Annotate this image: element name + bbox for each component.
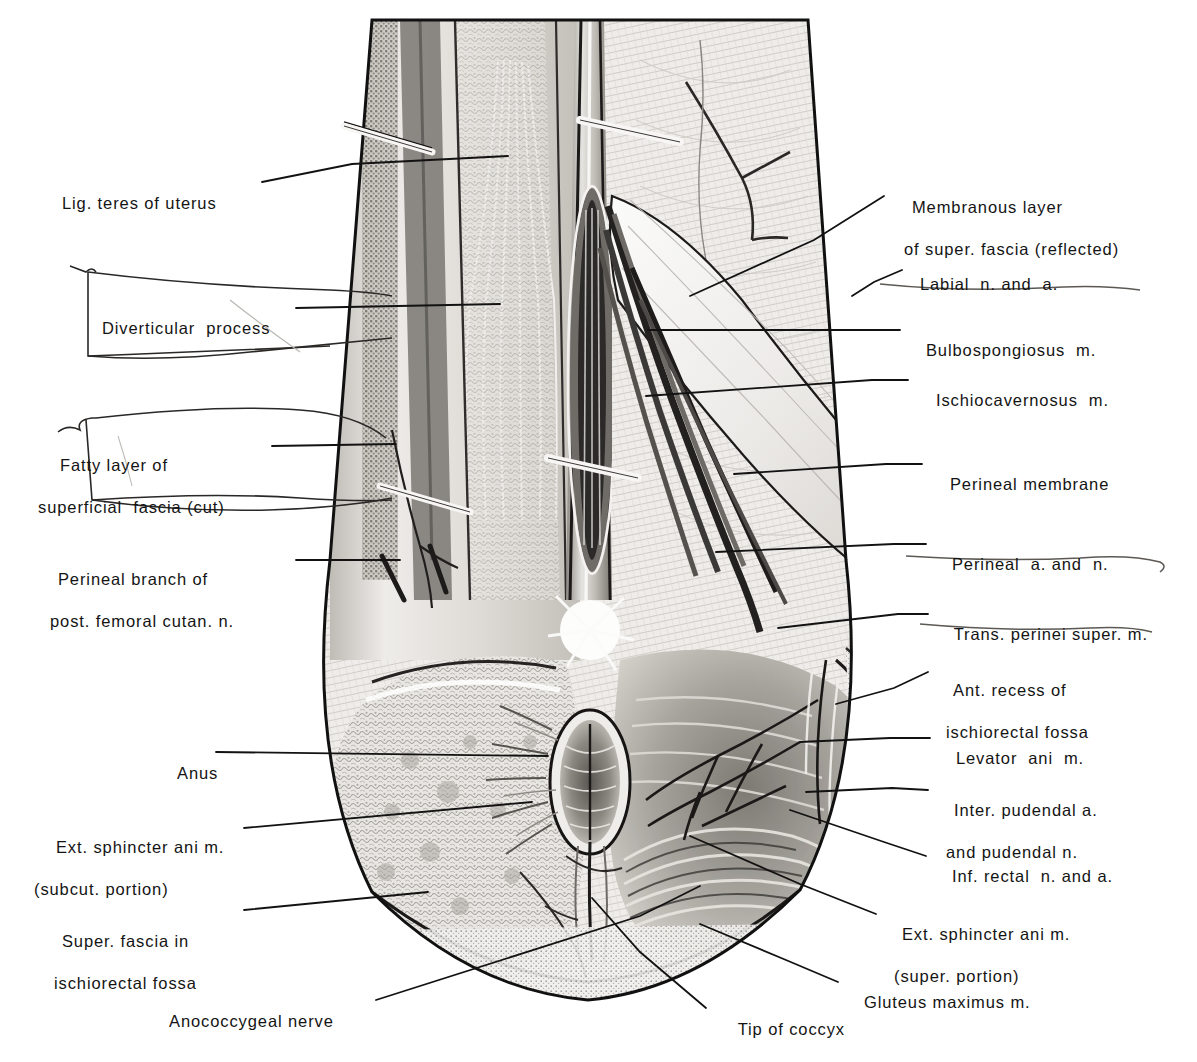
label-text-line2: post. femoral cutan. n. xyxy=(36,611,234,632)
label-text-line1: Perineal branch of xyxy=(58,570,208,588)
label-text-line1: Tip of coccyx xyxy=(738,1020,845,1038)
label-perineal-a-and-n: Perineal a. and n. xyxy=(930,533,1108,596)
label-perineal-membrane: Perineal membrane xyxy=(928,453,1109,516)
leader-ischiocavernosus-m xyxy=(646,380,908,396)
leader-fatty-layer-of-superficial-fascia xyxy=(272,444,396,446)
leader-inf-rectal-n-and-a xyxy=(790,810,926,856)
label-text-line1: Lig. teres of uterus xyxy=(62,194,217,212)
label-text-line1: Fatty layer of xyxy=(60,456,168,474)
label-text-line1: Anus xyxy=(177,764,218,782)
label-text-line1: Diverticular process xyxy=(102,319,270,337)
leader-trans-perinei-super-m xyxy=(778,614,928,628)
leader-lig-teres-of-uterus xyxy=(262,156,508,182)
label-text-line1: Bulbospongiosus m. xyxy=(926,341,1096,359)
leader-membranous-layer xyxy=(690,196,884,296)
leader-perineal-membrane xyxy=(734,464,922,474)
label-text-line2: (subcut. portion) xyxy=(34,879,224,900)
leader-super-fascia-in-ischiorectal-fossa xyxy=(244,892,428,910)
leader-ext-sphincter-ani-m-subcut-portion xyxy=(244,802,532,828)
label-text-line1: Perineal membrane xyxy=(950,475,1109,493)
label-anus: Anus xyxy=(156,742,218,805)
label-trans-perinei-super-m: Trans. perinei super. m. xyxy=(932,603,1148,666)
label-text-line1: Ext. sphincter ani m. xyxy=(56,838,224,856)
label-lig-teres-of-uterus: Lig. teres of uterus xyxy=(40,172,217,235)
label-text-line1: Perineal a. and n. xyxy=(952,555,1109,573)
leader-tip-of-coccyx xyxy=(592,898,706,1008)
label-labial-n-and-a: Labial n. and a. xyxy=(898,253,1058,316)
leader-inter-pudendal-a-and-pudendal-n xyxy=(806,788,928,792)
label-fatty-layer-of-superficial-fascia: Fatty layer of superficial fascia (cut) xyxy=(38,434,225,560)
label-text-line1: Membranous layer xyxy=(912,198,1063,216)
page-caption-cropped xyxy=(0,1048,1197,1062)
label-text-line1: Ant. recess of xyxy=(953,681,1066,699)
leader-ext-sphincter-ani-m-super-portion xyxy=(690,836,876,914)
leader-ant-recess-of-ischiorectal-fossa xyxy=(836,672,928,704)
leader-perineal-a-and-n xyxy=(716,544,926,552)
leader-anococcygeal-nerve xyxy=(376,886,700,1000)
leader-gluteus-maximus-m xyxy=(700,924,838,982)
figure-page: Lig. teres of uterus Diverticular proces… xyxy=(0,0,1197,1062)
label-text-line1: Levator ani m. xyxy=(956,749,1084,767)
leader-diverticular-process xyxy=(296,304,500,308)
label-anococcygeal-nerve: Anococcygeal nerve xyxy=(148,990,334,1053)
label-text-line1: Super. fascia in xyxy=(62,932,189,950)
label-text-line1: Inter. pudendal a. xyxy=(954,801,1098,819)
label-gluteus-maximus-m: Gluteus maximus m. xyxy=(842,971,1031,1034)
label-diverticular-process: Diverticular process xyxy=(80,297,270,360)
label-perineal-branch-of-post-femoral-cutan-n: Perineal branch of post. femoral cutan. … xyxy=(36,548,234,674)
label-text-line1: Ischiocavernosus m. xyxy=(936,391,1109,409)
label-text-line1: Inf. rectal n. and a. xyxy=(952,867,1113,885)
leader-anus xyxy=(216,752,548,756)
leader-levator-ani-m xyxy=(800,738,930,742)
label-text-line1: Anococcygeal nerve xyxy=(169,1012,334,1030)
label-text-line1: Gluteus maximus m. xyxy=(864,993,1031,1011)
label-inf-rectal-n-and-a: Inf. rectal n. and a. xyxy=(930,845,1113,908)
label-text-line1: Labial n. and a. xyxy=(920,275,1058,293)
label-ischiocavernosus-m: Ischiocavernosus m. xyxy=(914,369,1109,432)
label-text-line2: superficial fascia (cut) xyxy=(38,497,225,518)
label-text-line1: Ext. sphincter ani m. xyxy=(902,925,1070,943)
label-text-line1: Trans. perinei super. m. xyxy=(954,625,1148,643)
